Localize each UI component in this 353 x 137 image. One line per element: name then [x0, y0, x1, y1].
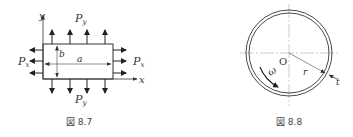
top-load-label: Py	[74, 12, 87, 26]
thickness-label: t	[336, 77, 340, 87]
center-label: O	[279, 56, 287, 67]
figure-8-8: O r t ω 図 8.8	[240, 4, 340, 127]
dimension-a-label: a	[77, 54, 82, 64]
x-axis-label: x	[139, 74, 145, 85]
top-load-arrows	[52, 30, 105, 44]
left-load-label: Px	[17, 55, 29, 69]
right-load-arrows	[113, 50, 126, 73]
left-load-arrows	[30, 50, 43, 73]
bottom-load-arrows	[52, 79, 105, 93]
radius-label: r	[303, 67, 308, 77]
angular-velocity-label: ω	[265, 64, 278, 78]
right-load-label: Px	[132, 55, 144, 69]
figure-8-7: y x Py Py Px	[17, 10, 145, 127]
dimension-b-label: b	[59, 49, 65, 59]
y-axis-label: y	[38, 10, 45, 21]
bottom-load-label: Py	[74, 93, 87, 107]
figure-8-8-caption: 図 8.8	[276, 117, 302, 127]
figure-8-7-caption: 図 8.7	[66, 117, 92, 127]
